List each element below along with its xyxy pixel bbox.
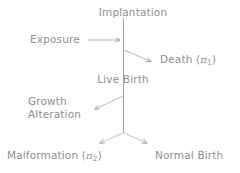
node-label-implantation: Implantation (99, 6, 167, 19)
node-label-exposure: Exposure (30, 33, 80, 46)
growth-branch-arrow (95, 96, 123, 109)
diagram-canvas: Implantation Exposure Death (π1) Live Bi… (0, 0, 240, 173)
malformation-text: Malformation (7, 149, 78, 161)
node-label-growth-alteration: Growth Alteration (28, 95, 81, 120)
normal-birth-branch-arrow (124, 133, 147, 143)
malformation-branch-arrow (100, 133, 123, 143)
death-text: Death (160, 53, 193, 65)
death-paren-close: ) (212, 53, 216, 65)
node-label-live-birth: Live Birth (97, 73, 149, 86)
death-pi-symbol: π (200, 54, 207, 65)
node-label-death: Death (π1) (160, 53, 216, 69)
diagram-lines (0, 0, 240, 173)
growth-line-2: Alteration (28, 108, 81, 121)
death-branch-arrow (124, 50, 151, 62)
malformation-pi-symbol: π (86, 150, 93, 161)
node-label-normal-birth: Normal Birth (155, 149, 223, 162)
node-label-malformation: Malformation (π2) (7, 149, 102, 165)
growth-line-1: Growth (28, 95, 81, 108)
malformation-paren-close: ) (98, 149, 102, 161)
